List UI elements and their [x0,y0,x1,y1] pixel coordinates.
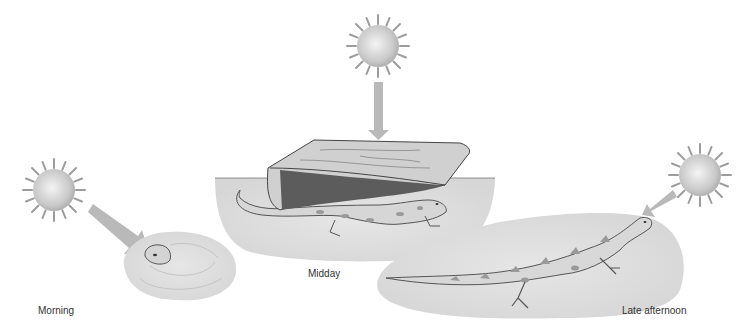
midday-panel [215,15,495,261]
morning-burrow-sand [124,232,236,300]
thermoregulation-diagram [0,0,751,335]
label-late-afternoon: Late afternoon [622,305,687,316]
late-afternoon-arrow-icon [642,190,677,217]
morning-sun-icon [23,159,85,221]
label-morning: Morning [38,305,74,316]
midday-sun-icon [347,15,409,77]
morning-lizard-head [145,245,171,264]
label-midday: Midday [308,268,340,279]
midday-arrow-icon [368,82,389,140]
late-afternoon-sun-icon [669,144,731,206]
morning-panel [23,159,236,300]
